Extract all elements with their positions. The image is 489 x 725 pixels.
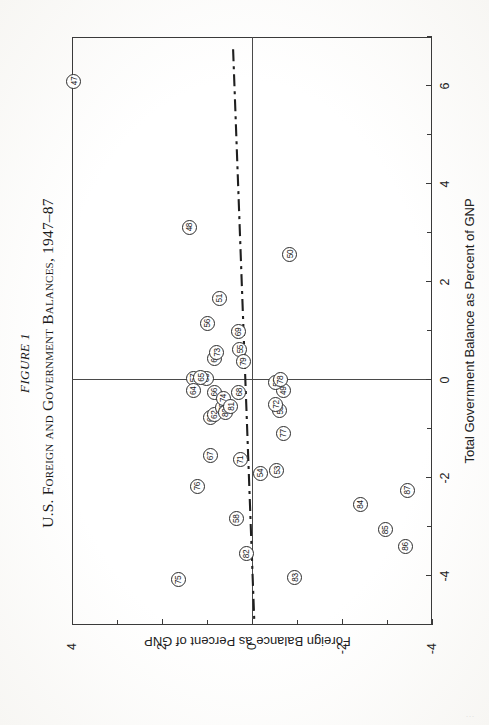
data-point-76: 76 xyxy=(190,478,205,493)
page-number-artifact: ... xyxy=(466,710,475,719)
x-minor-tick xyxy=(427,232,432,233)
data-point-51: 51 xyxy=(212,290,227,305)
x-axis-title: Total Government Balance as Percent of G… xyxy=(462,37,477,625)
data-point-label: 48 xyxy=(185,222,193,230)
data-point-label: 82 xyxy=(242,549,250,557)
data-point-83: 83 xyxy=(287,569,302,584)
x-tick-label: -4 xyxy=(438,570,452,581)
data-point-label: 75 xyxy=(174,575,182,583)
data-point-64: 64 xyxy=(185,383,200,398)
data-point-73: 73 xyxy=(209,345,224,360)
data-point-label: 51 xyxy=(215,293,223,301)
y-zero-reference-line xyxy=(252,37,253,625)
y-tick xyxy=(72,619,73,625)
data-point-77: 77 xyxy=(275,425,290,440)
data-point-label: 87 xyxy=(403,486,411,494)
data-point-86: 86 xyxy=(397,539,412,554)
data-point-label: 81 xyxy=(226,402,234,410)
data-point-label: 86 xyxy=(401,542,409,550)
figure-title: U.S. Foreign and Government Balances, 19… xyxy=(36,13,58,713)
x-minor-tick xyxy=(427,428,432,429)
data-point-label: 54 xyxy=(256,468,264,476)
data-point-82: 82 xyxy=(239,546,254,561)
x-minor-tick xyxy=(427,526,432,527)
data-point-label: 71 xyxy=(236,455,244,463)
data-point-67: 67 xyxy=(202,448,217,463)
data-point-label: 67 xyxy=(206,451,214,459)
data-point-label: 47 xyxy=(69,76,77,84)
x-tick xyxy=(426,183,432,184)
data-point-47: 47 xyxy=(66,73,81,88)
data-point-87: 87 xyxy=(399,482,414,497)
x-tick-label: 6 xyxy=(438,82,452,89)
data-point-label: 76 xyxy=(193,482,201,490)
data-point-label: 58 xyxy=(232,514,240,522)
data-point-85: 85 xyxy=(378,522,393,537)
x-tick-label: 4 xyxy=(438,180,452,187)
x-tick-label: -2 xyxy=(438,472,452,483)
y-axis-title: Foreign Balance as Percent of GNP xyxy=(67,633,427,648)
data-point-53: 53 xyxy=(269,462,284,477)
data-point-78: 78 xyxy=(272,372,287,387)
y-tick xyxy=(252,619,253,625)
x-tick-label: 0 xyxy=(438,376,452,383)
data-point-label: 73 xyxy=(213,348,221,356)
y-minor-tick xyxy=(297,620,298,625)
data-point-label: 64 xyxy=(189,386,197,394)
data-point-71: 71 xyxy=(232,452,247,467)
x-tick xyxy=(426,575,432,576)
data-point-58: 58 xyxy=(228,511,243,526)
data-point-81: 81 xyxy=(223,398,238,413)
scatter-plot-area: -4-20246 -4-2024 47484950515253545556575… xyxy=(72,37,432,625)
data-point-label: 84 xyxy=(356,500,364,508)
x-tick xyxy=(426,477,432,478)
x-minor-tick xyxy=(427,624,432,625)
y-minor-tick xyxy=(117,620,118,625)
x-tick xyxy=(426,85,432,86)
figure-number-label: FIGURE 1 xyxy=(16,13,35,713)
x-tick xyxy=(426,281,432,282)
x-tick-label: 2 xyxy=(438,278,452,285)
data-point-label: 50 xyxy=(285,249,293,257)
data-point-54: 54 xyxy=(252,465,267,480)
y-minor-tick xyxy=(207,620,208,625)
x-minor-tick xyxy=(427,330,432,331)
data-point-label: 69 xyxy=(234,327,242,335)
data-point-label: 85 xyxy=(381,525,389,533)
data-point-label: 65 xyxy=(196,373,204,381)
data-point-label: 83 xyxy=(290,573,298,581)
y-tick xyxy=(162,619,163,625)
data-point-label: 56 xyxy=(203,318,211,326)
data-point-68: 68 xyxy=(231,384,246,399)
x-minor-tick xyxy=(427,134,432,135)
data-point-label: 77 xyxy=(279,429,287,437)
data-point-72: 72 xyxy=(268,397,283,412)
figure-rotated-container: FIGURE 1 U.S. Foreign and Government Bal… xyxy=(10,13,480,713)
data-point-56: 56 xyxy=(199,315,214,330)
y-tick xyxy=(342,619,343,625)
data-point-48: 48 xyxy=(181,219,196,234)
data-point-label: 55 xyxy=(235,344,243,352)
data-point-50: 50 xyxy=(282,246,297,261)
y-minor-tick xyxy=(387,620,388,625)
data-point-65: 65 xyxy=(193,370,208,385)
x-tick xyxy=(426,379,432,380)
data-point-75: 75 xyxy=(171,572,186,587)
data-point-84: 84 xyxy=(352,496,367,511)
data-point-label: 79 xyxy=(239,357,247,365)
data-point-label: 78 xyxy=(276,375,284,383)
data-point-label: 53 xyxy=(272,465,280,473)
x-minor-tick xyxy=(427,36,432,37)
y-tick xyxy=(432,619,433,625)
data-point-79: 79 xyxy=(235,354,250,369)
data-point-label: 68 xyxy=(235,388,243,396)
figure-heading-block: FIGURE 1 U.S. Foreign and Government Bal… xyxy=(16,13,59,713)
data-point-label: 72 xyxy=(271,400,279,408)
data-point-69: 69 xyxy=(231,324,246,339)
